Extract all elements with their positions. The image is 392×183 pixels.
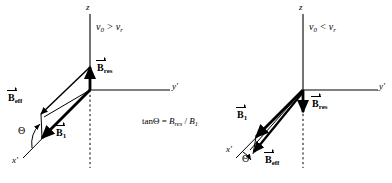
left-x-prime-axis-label: x' bbox=[12, 156, 18, 165]
left-b1-symbol: B bbox=[56, 128, 63, 138]
right-b1-subscript: 1 bbox=[244, 114, 248, 122]
left-b1-subscript: 1 bbox=[63, 132, 67, 140]
right-b-res-label: Bres bbox=[312, 99, 327, 111]
right-b-res-symbol: B bbox=[312, 99, 319, 109]
left-vector-b-eff bbox=[41, 67, 90, 114]
right-condition-label: ν0 < νr bbox=[309, 22, 336, 34]
left-b1-label: B1 bbox=[56, 128, 66, 140]
right-y-prime-axis-label: y' bbox=[379, 82, 385, 91]
panel-left bbox=[23, 14, 170, 168]
left-nur-subscript: r bbox=[120, 26, 123, 34]
right-z-axis-label: z bbox=[299, 3, 303, 12]
right-vector-b1 bbox=[256, 90, 303, 137]
formula-equals: = bbox=[162, 116, 167, 126]
formula-tan-theta: tanΘ = Bres / B1 bbox=[142, 117, 198, 128]
formula-denominator-subscript: 1 bbox=[195, 120, 198, 127]
formula-lhs: tanΘ bbox=[142, 116, 160, 126]
right-b1-symbol: B bbox=[237, 110, 244, 120]
right-b-res-subscript: res bbox=[319, 103, 328, 111]
left-z-axis-label: z bbox=[86, 3, 90, 12]
right-b-eff-label: Beff bbox=[265, 155, 279, 167]
left-condition-label: ν0 > νr bbox=[96, 22, 123, 34]
right-relation-symbol: < bbox=[319, 21, 326, 32]
right-b-eff-subscript: eff bbox=[272, 159, 280, 167]
left-theta-label: Θ bbox=[18, 126, 25, 136]
right-theta-label: Θ bbox=[242, 154, 249, 164]
left-b-eff-label: Beff bbox=[8, 93, 22, 105]
formula-slash: / bbox=[185, 116, 188, 126]
right-x-prime-axis-label: x' bbox=[226, 145, 232, 154]
right-vector-b-eff bbox=[254, 92, 303, 152]
left-b-eff-symbol: B bbox=[8, 93, 15, 103]
left-b-res-label: Bres bbox=[97, 63, 112, 75]
left-parallelogram-side bbox=[41, 114, 42, 138]
right-b1-label: B1 bbox=[237, 110, 247, 122]
right-nu0-subscript: 0 bbox=[313, 26, 317, 34]
left-y-prime-axis-label: y' bbox=[172, 82, 178, 91]
left-relation-symbol: > bbox=[106, 21, 113, 32]
left-b-res-symbol: B bbox=[97, 63, 104, 73]
left-b-res-subscript: res bbox=[104, 67, 113, 75]
formula-numerator-subscript: res bbox=[175, 120, 183, 127]
right-b-eff-symbol: B bbox=[265, 155, 272, 165]
panel-right bbox=[236, 14, 378, 168]
right-vector-b-eff-thin bbox=[250, 90, 303, 150]
left-b-eff-subscript: eff bbox=[15, 97, 23, 105]
right-nur-subscript: r bbox=[333, 26, 336, 34]
left-nu0-subscript: 0 bbox=[100, 26, 104, 34]
